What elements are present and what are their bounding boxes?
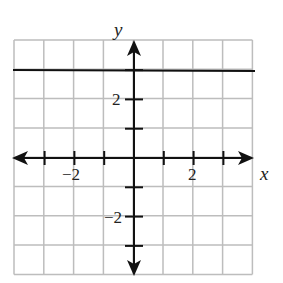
x-axis-label: x xyxy=(260,164,268,183)
x-tick-label-pos2: 2 xyxy=(188,166,197,183)
y-tick-label-neg2: −2 xyxy=(104,209,122,226)
y-tick-label-pos2: 2 xyxy=(112,91,121,108)
x-tick-label-neg2: −2 xyxy=(62,166,80,183)
graph-line-y-equals-3 xyxy=(13,70,255,71)
coordinate-plane xyxy=(0,0,283,283)
y-axis-label: y xyxy=(114,20,122,39)
